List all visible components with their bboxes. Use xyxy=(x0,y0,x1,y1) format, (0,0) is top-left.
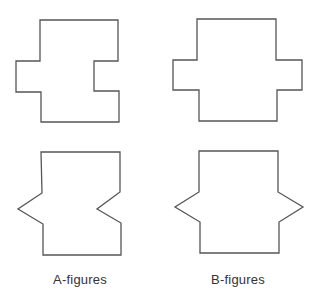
label-a-figures: A-figures xyxy=(20,272,140,287)
figures-canvas xyxy=(0,0,317,303)
label-b-figures: B-figures xyxy=(178,272,298,287)
figure-b-top xyxy=(173,19,302,121)
figure-b-bottom xyxy=(175,151,303,253)
figure-a-top xyxy=(16,20,119,122)
figure-a-bottom xyxy=(18,152,121,255)
